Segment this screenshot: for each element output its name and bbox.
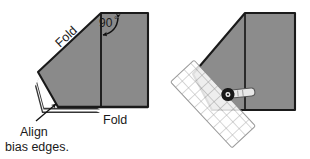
label-align-line2: bias edges. xyxy=(5,140,69,154)
label-align-line1: Align xyxy=(20,125,48,139)
label-angle-value: 90 xyxy=(99,16,113,30)
label-fold-bottom: Fold xyxy=(103,113,127,127)
diagram-svg: Fold Fold 90 ° Align bias edges. xyxy=(0,0,310,159)
figure-canvas: Fold Fold 90 ° Align bias edges. xyxy=(0,0,310,159)
